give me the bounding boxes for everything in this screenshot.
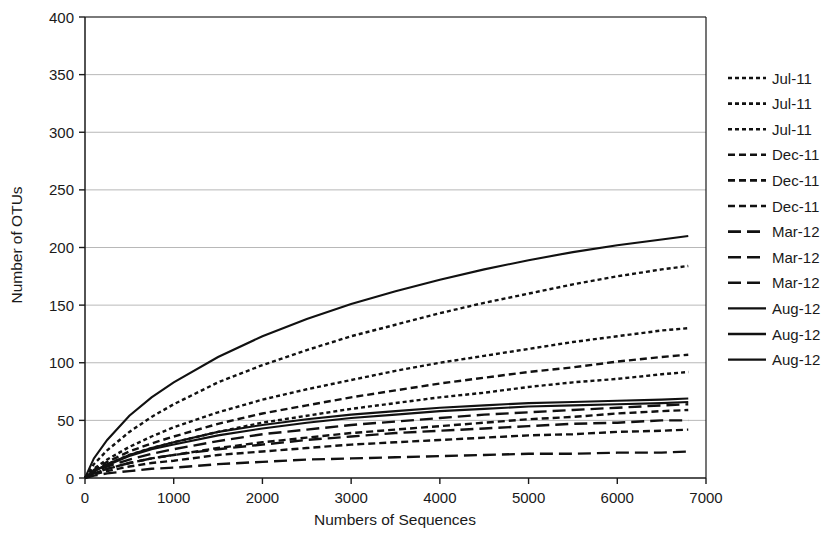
y-tick-label: 350 [49, 66, 74, 83]
y-tick-label: 250 [49, 181, 74, 198]
legend-label: Aug-12 [772, 300, 820, 317]
y-tick-label: 200 [49, 239, 74, 256]
y-tick-label: 100 [49, 354, 74, 371]
chart-canvas: 050100150200250300350400 010002000300040… [0, 0, 835, 537]
y-axis-title: Number of OTUs [8, 186, 25, 303]
legend-label: Mar-12 [772, 274, 820, 291]
legend-label: Aug-12 [772, 326, 820, 343]
x-tick-label: 3000 [334, 489, 367, 506]
y-tick-label: 400 [49, 9, 74, 26]
legend-label: Mar-12 [772, 249, 820, 266]
x-tick-label: 0 [81, 489, 89, 506]
x-tick-label: 5000 [512, 489, 545, 506]
legend-label: Dec-11 [772, 172, 819, 189]
x-axis-title: Numbers of Sequences [314, 511, 476, 528]
legend-label: Jul-11 [772, 121, 812, 138]
x-tick-label: 4000 [423, 489, 456, 506]
x-tick-label: 1000 [157, 489, 190, 506]
y-tick-label: 0 [66, 470, 74, 487]
legend-label: Dec-11 [772, 198, 819, 215]
legend-label: Jul-11 [772, 95, 812, 112]
x-tick-label: 6000 [601, 489, 634, 506]
legend-label: Aug-12 [772, 351, 820, 368]
rarefaction-chart: 050100150200250300350400 010002000300040… [0, 0, 835, 537]
y-tick-label: 300 [49, 124, 74, 141]
x-tick-label: 7000 [689, 489, 722, 506]
y-tick-label: 50 [57, 412, 74, 429]
legend-label: Mar-12 [772, 223, 820, 240]
legend-label: Dec-11 [772, 146, 819, 163]
x-tick-label: 2000 [246, 489, 279, 506]
legend-label: Jul-11 [772, 70, 812, 87]
y-tick-label: 150 [49, 297, 74, 314]
